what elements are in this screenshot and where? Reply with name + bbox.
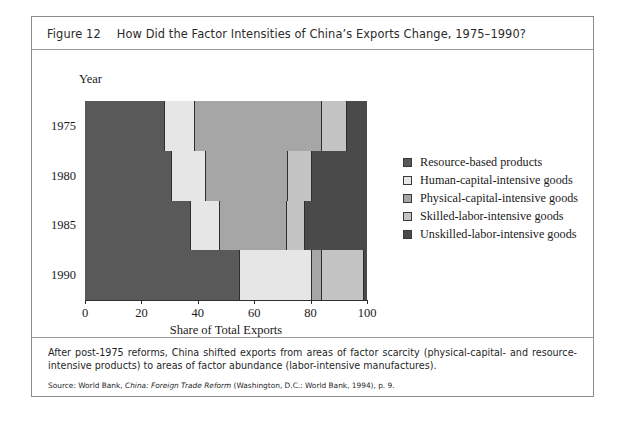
chart-legend: Resource-based productsHuman-capital-int…	[403, 154, 593, 243]
bar-segment	[85, 201, 191, 251]
x-tick	[311, 300, 312, 304]
figure-page: Figure 12How Did the Factor Intensities …	[0, 0, 627, 430]
bar-segment	[322, 250, 364, 300]
legend-label: Unskilled-labor-intensive goods	[420, 227, 576, 242]
figure-frame: Figure 12How Did the Factor Intensities …	[31, 16, 594, 397]
bar-segment	[195, 101, 322, 151]
bar-segment	[364, 250, 367, 300]
chart-area: Year 1975198019851990 020406080100 Share…	[32, 50, 593, 337]
bar-row: 1980	[85, 151, 367, 201]
legend-item: Unskilled-labor-intensive goods	[403, 225, 593, 243]
x-tick	[254, 300, 255, 304]
legend-label: Resource-based products	[420, 155, 542, 170]
caption-block: After post-1975 reforms, China shifted e…	[32, 337, 593, 396]
figure-caption: After post-1975 reforms, China shifted e…	[48, 346, 577, 373]
legend-item: Human-capital-intensive goods	[403, 172, 593, 190]
source-suffix: (Washington, D.C.: World Bank, 1994), p.…	[231, 381, 394, 390]
figure-source: Source: World Bank, China: Foreign Trade…	[48, 381, 577, 390]
y-tick-label: 1990	[51, 268, 76, 283]
legend-swatch	[403, 212, 412, 221]
x-tick	[198, 300, 199, 304]
bar-segment	[347, 101, 367, 151]
bar-segment	[220, 201, 286, 251]
x-tick-label: 0	[82, 306, 88, 321]
bar-segment	[85, 101, 165, 151]
bar-segment	[85, 250, 240, 300]
bar-segment	[85, 151, 172, 201]
figure-number: Figure 12	[47, 27, 101, 41]
bar-segment	[191, 201, 221, 251]
bar-rows: 1975198019851990	[85, 101, 367, 300]
bar-segment	[165, 101, 195, 151]
plot-area: 1975198019851990 020406080100 Share of T…	[85, 101, 367, 300]
bar-segment	[322, 101, 347, 151]
x-tick-label: 20	[135, 306, 148, 321]
legend-swatch	[403, 230, 412, 239]
legend-item: Resource-based products	[403, 154, 593, 172]
bar-segment	[287, 201, 305, 251]
bar-row: 1975	[85, 101, 367, 151]
x-tick-label: 40	[192, 306, 205, 321]
x-tick	[367, 300, 368, 304]
x-axis-line	[85, 300, 367, 301]
source-prefix: Source: World Bank,	[48, 381, 125, 390]
bar-segment	[172, 151, 206, 201]
legend-label: Physical-capital-intensive goods	[420, 191, 578, 206]
bar-segment	[305, 201, 367, 251]
legend-label: Human-capital-intensive goods	[420, 173, 573, 188]
bar-segment	[206, 151, 288, 201]
source-italic-title: China: Foreign Trade Reform	[125, 381, 231, 390]
bar-row: 1985	[85, 201, 367, 251]
figure-title: How Did the Factor Intensities of China’…	[117, 27, 526, 41]
y-axis-title: Year	[79, 72, 102, 87]
legend-item: Skilled-labor-intensive goods	[403, 207, 593, 225]
legend-swatch	[403, 176, 412, 185]
x-tick-label: 60	[248, 306, 261, 321]
x-tick	[85, 300, 86, 304]
x-axis-title: Share of Total Exports	[170, 323, 282, 338]
bar-segment	[312, 151, 367, 201]
x-tick-label: 100	[358, 306, 377, 321]
legend-swatch	[403, 158, 412, 167]
figure-header: Figure 12How Did the Factor Intensities …	[32, 17, 593, 50]
bar-segment	[312, 250, 322, 300]
y-tick-label: 1980	[51, 168, 76, 183]
legend-swatch	[403, 194, 412, 203]
bar-segment	[240, 250, 312, 300]
x-tick	[141, 300, 142, 304]
x-tick-label: 80	[304, 306, 317, 321]
bar-row: 1990	[85, 250, 367, 300]
bar-segment	[288, 151, 312, 201]
legend-item: Physical-capital-intensive goods	[403, 190, 593, 208]
y-tick-label: 1975	[51, 118, 76, 133]
legend-label: Skilled-labor-intensive goods	[420, 209, 564, 224]
y-tick-label: 1985	[51, 218, 76, 233]
